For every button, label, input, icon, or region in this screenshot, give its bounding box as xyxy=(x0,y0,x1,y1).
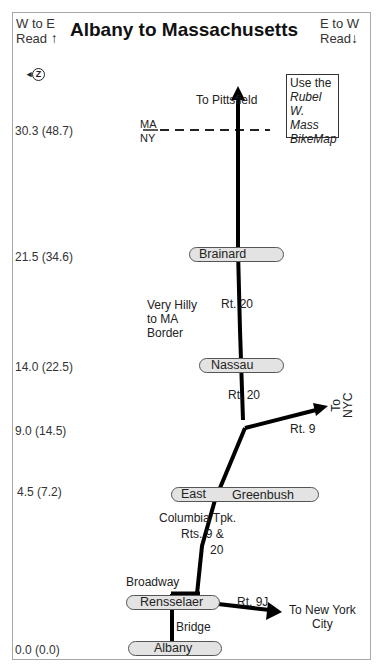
to-nyc-city-line: City xyxy=(289,617,356,631)
to-nyc-line: NYC xyxy=(342,393,354,418)
milepost-label: 0.0 (0.0) xyxy=(15,643,60,657)
to-nyc-label: To NYC xyxy=(330,393,354,418)
milepost-label: 21.5 (34.6) xyxy=(15,250,73,264)
milepost-label: 9.0 (14.5) xyxy=(15,424,66,438)
columbia-line: Columbia Tpk. xyxy=(159,511,236,525)
milepost-label: 14.0 (22.5) xyxy=(15,360,73,374)
columbia-20-label: 20 xyxy=(210,543,223,557)
milepost-label: 30.3 (48.7) xyxy=(15,124,73,138)
broadway-label: Broadway xyxy=(126,575,179,589)
town-label: East xyxy=(181,488,206,501)
town-brainard: Brainard xyxy=(189,247,284,262)
town-rensselaer: Rensselaer xyxy=(126,595,220,610)
hilly-line: Border xyxy=(147,326,197,340)
town-label: Brainard xyxy=(199,248,246,261)
town-nassau: Nassau xyxy=(199,358,284,373)
town-label: Nassau xyxy=(211,359,253,372)
ma-label: MA xyxy=(140,117,157,131)
hilly-line: to MA xyxy=(147,312,197,326)
rt9-label: Rt. 9 xyxy=(290,422,315,436)
columbia-tpk-label: Columbia Tpk. xyxy=(159,511,236,525)
town-albany: Albany xyxy=(128,641,222,656)
to-pittsfield-label: To Pittsfield xyxy=(196,93,257,107)
town-label: Greenbush xyxy=(232,489,294,502)
rt20-lower-label: Rt. 20 xyxy=(228,388,260,402)
ny-label: NY xyxy=(140,131,155,145)
town-label: Rensselaer xyxy=(140,596,203,609)
town-east-greenbush: East Greenbush xyxy=(171,487,319,502)
rt20-upper-label: Rt. 20 xyxy=(221,297,253,311)
to-nyc-city-line: To New York xyxy=(289,603,356,617)
hilly-note: Very Hilly to MA Border xyxy=(147,298,197,340)
milepost-label: 4.5 (7.2) xyxy=(17,485,62,499)
rt9j-label: Rt. 9J xyxy=(237,595,268,609)
columbia-rts-label: Rts. 9 & xyxy=(181,527,224,541)
hilly-line: Very Hilly xyxy=(147,298,197,312)
bridge-label: Bridge xyxy=(176,620,211,634)
town-label: Albany xyxy=(154,642,192,655)
to-new-york-city-label: To New York City xyxy=(289,603,356,631)
